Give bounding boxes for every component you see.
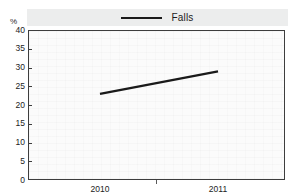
legend-label-falls: Falls — [171, 13, 193, 23]
y-tick-label: 20 — [5, 101, 25, 110]
chart-title-cutoff — [86, 0, 204, 3]
y-tick-label: 35 — [5, 44, 25, 53]
y-tick-label: 25 — [5, 82, 25, 91]
legend-entry-falls: Falls — [27, 9, 288, 26]
x-tick-label: 2010 — [80, 185, 120, 194]
x-tick-mark — [156, 180, 157, 184]
y-tick-label: 10 — [5, 138, 25, 147]
y-tick-label: 15 — [5, 119, 25, 128]
chart-legend: Falls — [27, 9, 288, 26]
x-tick-label: 2011 — [198, 185, 238, 194]
y-tick-label: 30 — [5, 63, 25, 72]
y-tick-label: 0 — [5, 176, 25, 185]
y-tick-label: 40 — [5, 26, 25, 35]
line-swatch-icon — [121, 17, 162, 19]
series-falls-line — [28, 30, 285, 180]
y-tick-label: 5 — [5, 157, 25, 166]
y-axis: 0510152025303540 — [3, 0, 25, 195]
line-chart: Falls % 0510152025303540 20102011 — [0, 0, 292, 195]
